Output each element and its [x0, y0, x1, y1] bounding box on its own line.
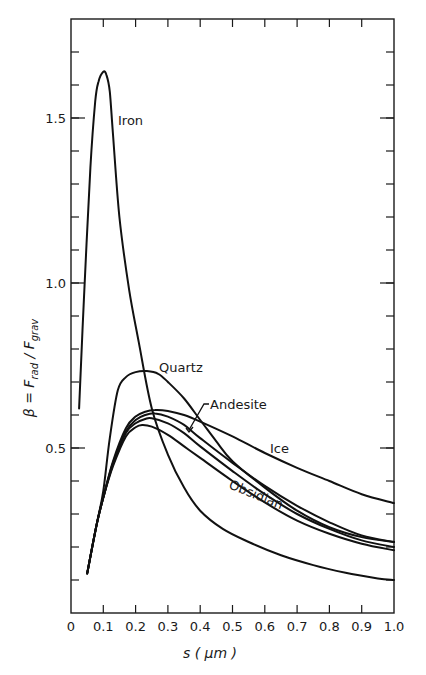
x-tick-label: 0.8 — [319, 619, 340, 634]
data-curves — [79, 71, 394, 580]
x-tick-label: 0.1 — [93, 619, 114, 634]
y-tick-label: 1.0 — [45, 276, 66, 291]
label-andesite: Andesite — [210, 397, 267, 412]
x-axis-title: s ( μm ) — [183, 645, 237, 661]
svg-text:β = Frad / Fgrav: β = Frad / Fgrav — [21, 318, 40, 418]
plot-frame — [71, 19, 394, 613]
label-ice: Ice — [270, 441, 289, 456]
x-tick-label: 0.2 — [125, 619, 146, 634]
x-tick-label: 0.7 — [287, 619, 308, 634]
x-tick-label: 0.5 — [222, 619, 243, 634]
label-iron: Iron — [118, 113, 143, 128]
chart-plot: 00.10.20.30.40.50.60.70.80.91.00.51.01.5… — [0, 0, 426, 675]
curve-iron — [79, 71, 394, 580]
x-tick-label: 1.0 — [384, 619, 405, 634]
y-tick-label: 0.5 — [45, 441, 66, 456]
plot-border — [71, 19, 394, 613]
x-tick-label: 0.3 — [158, 619, 179, 634]
x-tick-label: 0.6 — [254, 619, 275, 634]
curve-obsidian — [87, 425, 394, 574]
x-tick-label: 0.9 — [351, 619, 372, 634]
y-tick-label: 1.5 — [45, 111, 66, 126]
label-quartz: Quartz — [159, 360, 203, 375]
axis-ticks: 00.10.20.30.40.50.60.70.80.91.00.51.01.5 — [45, 19, 404, 634]
y-axis-title: β = Frad / Fgrav — [21, 318, 40, 418]
x-tick-label: 0.4 — [190, 619, 211, 634]
x-tick-label: 0 — [67, 619, 75, 634]
